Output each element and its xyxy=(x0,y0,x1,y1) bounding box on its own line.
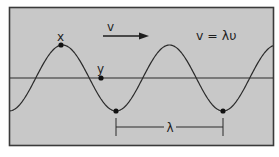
wave-diagram: v v = λυ x y λ xyxy=(0,0,279,157)
axis-point-y xyxy=(98,75,103,80)
point-x-label: x xyxy=(57,30,64,44)
wave-equation: v = λυ xyxy=(196,28,236,43)
point-y-label: y xyxy=(97,62,104,76)
trough-point-2 xyxy=(220,108,225,113)
trough-point-1 xyxy=(113,108,118,113)
wavelength-label: λ xyxy=(166,121,173,135)
velocity-label: v xyxy=(107,20,114,34)
